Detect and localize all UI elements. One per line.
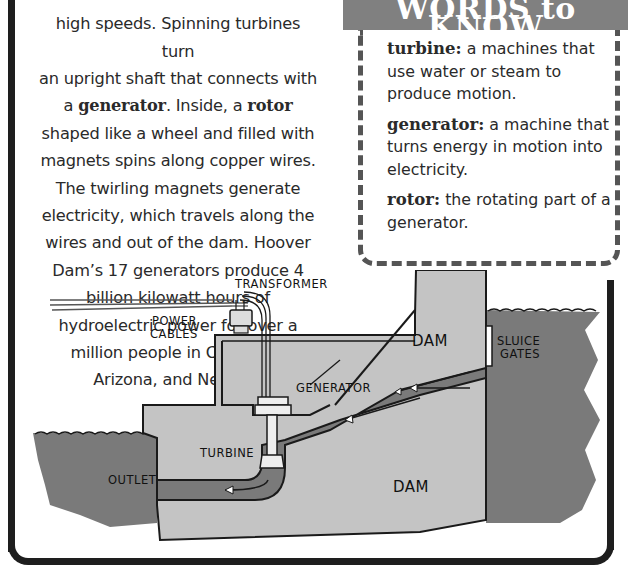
label-dam-top: DAM [412, 332, 448, 350]
glossary-entry-turbine: turbine: a machines that use water or st… [387, 38, 613, 106]
label-power-cables-1: POWER [152, 314, 197, 328]
words-to-know-box: turbine: a machines that use water or st… [358, 30, 620, 266]
glossary-term: generator: [387, 115, 484, 134]
body-line-0: high speeds. Spinning turbines turn [56, 14, 301, 60]
glossary-term: rotor: [387, 190, 440, 209]
power-cables [50, 300, 232, 310]
label-transformer: TRANSFORMER [234, 277, 328, 291]
term-generator: generator [78, 96, 166, 115]
transformer [230, 310, 252, 326]
label-dam-bottom: DAM [393, 478, 429, 496]
label-gates: GATES [500, 347, 540, 361]
glossary-entry-rotor: rotor: the rotating part of a generator. [387, 189, 613, 234]
label-turbine: TURBINE [199, 446, 254, 460]
term-rotor: rotor [247, 96, 292, 115]
words-to-know-title: WORDS to KNOW [343, 0, 628, 30]
label-generator: GENERATOR [296, 381, 371, 395]
glossary-entry-generator: generator: a machine that turns energy i… [387, 114, 613, 182]
glossary-term: turbine: [387, 39, 462, 58]
label-outlet: OUTLET [108, 473, 157, 487]
generator-unit [258, 397, 288, 405]
label-sluice: SLUICE [497, 334, 540, 348]
dam-diagram: TRANSFORMER POWER CABLES DAM SLUICE GATE… [0, 270, 628, 550]
turbine-blades [260, 455, 284, 468]
turbine-shaft [267, 415, 277, 457]
sluice-gate [486, 326, 492, 366]
label-power-cables-2: CABLES [150, 327, 198, 341]
